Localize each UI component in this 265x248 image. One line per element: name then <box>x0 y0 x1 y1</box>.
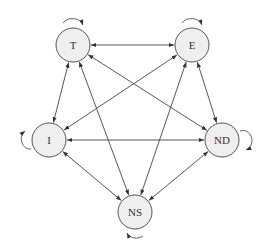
self-loop-i <box>21 131 31 149</box>
edge-t-i <box>53 62 68 122</box>
edge-i-ns <box>63 152 121 201</box>
node-label: ND <box>214 134 230 146</box>
edge-t-ns <box>79 62 128 195</box>
edge-e-nd <box>197 62 216 123</box>
edge-t-nd <box>88 55 207 131</box>
node-ns: NS <box>118 195 152 229</box>
self-loop-e <box>182 19 202 25</box>
node-label: T <box>70 39 77 51</box>
self-loop-nd <box>240 130 252 150</box>
node-label: NS <box>128 206 142 218</box>
node-i: I <box>32 123 66 157</box>
edge-nd-ns <box>149 151 208 200</box>
node-label: I <box>47 134 51 146</box>
self-loop-t <box>63 19 83 25</box>
nodes-layer: TEINDNS <box>32 28 239 229</box>
state-transition-diagram: TEINDNS <box>0 0 265 248</box>
node-t: T <box>56 28 90 62</box>
edges-layer <box>53 45 216 201</box>
self-loop-ns <box>127 233 143 238</box>
node-label: E <box>189 39 196 51</box>
node-e: E <box>175 28 209 62</box>
node-nd: ND <box>205 123 239 157</box>
